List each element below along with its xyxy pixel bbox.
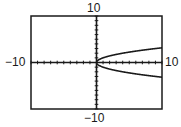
lower-branch-curve [97,63,163,78]
upper-branch-curve [97,48,163,63]
calculator-graph [0,0,181,127]
